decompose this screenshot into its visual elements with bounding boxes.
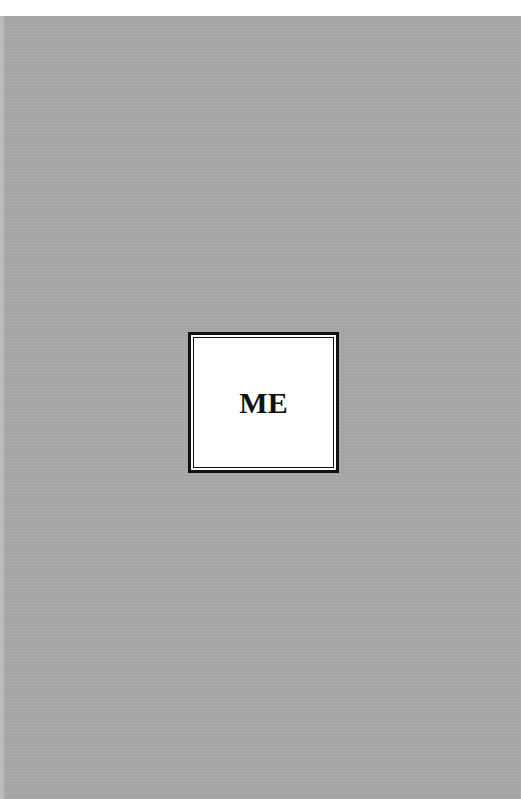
book-title: ME	[239, 386, 287, 420]
title-inner-frame: ME	[193, 337, 334, 468]
cover-left-edge	[0, 16, 4, 799]
title-frame: ME	[188, 332, 339, 473]
